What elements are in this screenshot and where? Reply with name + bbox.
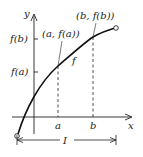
open-endpoint-right-icon [114,26,119,31]
y-axis [31,14,37,134]
point-label-b: (b, f(b)) [76,10,115,21]
curve-label: f [71,55,78,66]
function-curve [18,28,115,134]
y-tick-label-fa: f(a) [10,66,29,77]
point-label-a: (a, f(a)) [42,28,80,39]
function-diagram: y x f(b) f(a) a b (a, f(a)) (b, f(b)) f … [0,0,143,157]
x-axis [12,114,132,120]
y-tick-label-fb: f(b) [9,33,28,44]
y-axis-label: y [23,8,30,19]
x-tick-label-a: a [55,120,61,131]
x-axis-label: x [128,120,134,131]
x-tick-label-b: b [90,120,96,131]
